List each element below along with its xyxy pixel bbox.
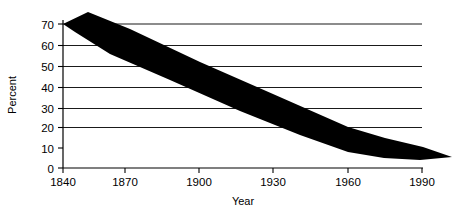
y-tick-labels: 70 60 50 40 30 20 10 0 [41,19,54,175]
y-ticks [58,24,63,168]
data-band [63,12,452,160]
y-axis-title: Percent [6,76,18,114]
y-tick-label-30: 30 [41,103,54,115]
x-tick-labels: 1840 1870 1900 1930 1960 1990 [50,176,435,188]
x-tick-label-1870: 1870 [112,176,138,188]
x-tick-label-1930: 1930 [260,176,286,188]
x-tick-label-1990: 1990 [409,176,435,188]
x-axis-title: Year [232,195,255,207]
y-tick-label-40: 40 [41,82,54,94]
y-tick-label-70: 70 [41,19,54,31]
y-tick-label-50: 50 [41,61,54,73]
x-tick-label-1960: 1960 [335,176,361,188]
x-tick-label-1840: 1840 [50,176,76,188]
y-tick-label-10: 10 [41,143,54,155]
y-tick-label-20: 20 [41,122,54,134]
x-ticks [63,168,422,173]
y-tick-label-0: 0 [48,163,54,175]
x-tick-label-1900: 1900 [186,176,212,188]
chart-plot: 70 60 50 40 30 20 10 0 1840 1870 1900 19… [0,0,461,209]
chart-container: 70 60 50 40 30 20 10 0 1840 1870 1900 19… [0,0,461,209]
y-tick-label-60: 60 [41,40,54,52]
